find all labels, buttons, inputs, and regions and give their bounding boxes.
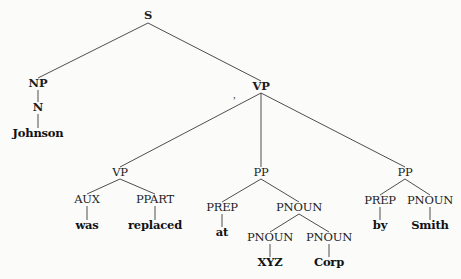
- edge-s-np: [38, 23, 148, 78]
- stray-mark: ,: [233, 88, 236, 100]
- edge-vp-pp-right: [261, 93, 405, 167]
- word-replaced: replaced: [128, 220, 182, 232]
- node-s: S: [144, 10, 152, 22]
- node-pp-mid: PP: [253, 167, 268, 179]
- edge-vp-vp: [120, 93, 261, 167]
- word-corp: Corp: [314, 257, 344, 269]
- edge-pp-pnoun: [261, 179, 299, 202]
- word-by: by: [373, 220, 387, 232]
- node-vp-top: VP: [252, 81, 269, 93]
- node-prep-at: PREP: [206, 202, 238, 214]
- word-johnson: Johnson: [13, 128, 64, 140]
- edge-pp-prep: [222, 179, 261, 202]
- node-prep-by: PREP: [364, 195, 396, 207]
- node-pnoun-mid: PNOUN: [276, 202, 322, 214]
- node-vp-low: VP: [112, 167, 128, 179]
- node-pnoun-smith: PNOUN: [407, 195, 453, 207]
- node-ppart: PPART: [136, 194, 174, 206]
- word-at: at: [216, 227, 228, 239]
- node-np: NP: [29, 78, 48, 90]
- node-n: N: [33, 102, 43, 114]
- edge-s-vp: [148, 23, 261, 81]
- word-smith: Smith: [411, 220, 449, 232]
- node-aux: AUX: [74, 194, 100, 206]
- word-xyz: XYZ: [258, 257, 283, 269]
- node-pnoun-corp: PNOUN: [306, 232, 352, 244]
- node-pp-right: PP: [397, 167, 412, 179]
- node-pnoun-xyz: PNOUN: [247, 232, 293, 244]
- word-was: was: [75, 220, 98, 232]
- tree-edges: [0, 0, 461, 279]
